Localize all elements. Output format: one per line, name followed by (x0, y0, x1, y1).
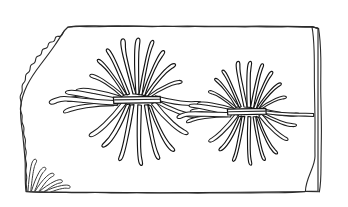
central-bar-inner-line (229, 111, 266, 112)
central-bar-inner-line (115, 99, 160, 100)
fossil-slab-illustration (0, 0, 348, 207)
figure-root (0, 0, 348, 207)
